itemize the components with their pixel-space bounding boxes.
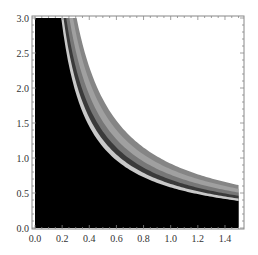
y-tick-label: 2.0 — [17, 83, 30, 94]
y-tick-label: 1.0 — [17, 153, 30, 164]
y-tick-label: 0.5 — [17, 188, 30, 199]
y-tick-label: 2.5 — [17, 48, 30, 59]
x-tick-label: 0.2 — [56, 233, 69, 244]
x-tick-label: 0.4 — [83, 233, 96, 244]
x-tick-label: 0.8 — [137, 233, 150, 244]
x-tick-label: 0.6 — [110, 233, 123, 244]
y-axis-labels: 0.00.51.01.52.02.53.0 — [17, 13, 30, 234]
plot-area — [35, 18, 239, 228]
x-tick-label: 0.0 — [29, 233, 42, 244]
x-axis-labels: 0.00.20.40.60.81.01.21.4 — [29, 233, 231, 244]
y-tick-label: 3.0 — [17, 13, 30, 24]
x-tick-label: 1.4 — [219, 233, 232, 244]
y-tick-label: 0.0 — [17, 223, 30, 234]
region-plot: 0.00.20.40.60.81.01.21.4 0.00.51.01.52.0… — [0, 0, 258, 255]
filled-region — [35, 18, 239, 228]
x-tick-label: 1.0 — [164, 233, 177, 244]
y-tick-label: 1.5 — [17, 118, 30, 129]
x-tick-label: 1.2 — [192, 233, 205, 244]
